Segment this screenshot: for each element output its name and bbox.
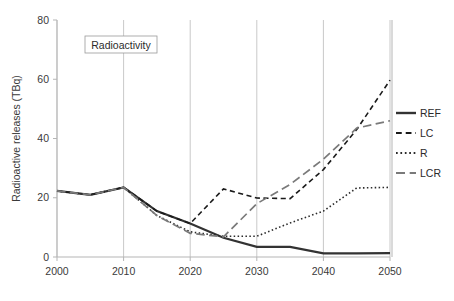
y-axis-title: Radioactive releases (TBq) xyxy=(10,75,22,202)
y-tick-label-4: 80 xyxy=(37,14,49,26)
x-tick-label-4: 2040 xyxy=(312,265,336,277)
chart-background xyxy=(0,0,454,301)
legend-label-lc: LC xyxy=(420,127,434,139)
radioactivity-line-chart: 020406080 200020102020203020402050 Radio… xyxy=(0,0,454,301)
y-tick-label-3: 60 xyxy=(37,73,49,85)
legend-label-r: R xyxy=(420,147,428,159)
y-tick-label-2: 40 xyxy=(37,132,49,144)
chart-annotation: Radioactivity xyxy=(85,36,157,53)
x-tick-label-1: 2010 xyxy=(112,265,136,277)
y-tick-label-0: 0 xyxy=(43,251,49,263)
x-tick-label-0: 2000 xyxy=(45,265,69,277)
legend-label-ref: REF xyxy=(420,107,441,119)
chart-canvas: 020406080 200020102020203020402050 Radio… xyxy=(0,0,454,301)
annotation-label: Radioactivity xyxy=(91,39,151,51)
y-tick-label-1: 20 xyxy=(37,191,49,203)
x-tick-label-2: 2020 xyxy=(179,265,203,277)
legend-label-lcr: LCR xyxy=(420,167,441,179)
x-tick-label-3: 2030 xyxy=(245,265,269,277)
x-tick-label-5: 2050 xyxy=(378,265,402,277)
